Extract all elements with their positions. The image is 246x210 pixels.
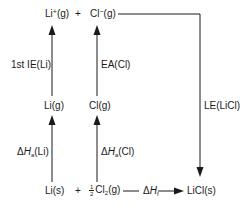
species-cl-gas: Cl(g) [89,100,111,112]
fraction-one-half: 12 [89,184,94,197]
born-haber-cycle-diagram: Li+(g) + Cl−(g) 1st IE(Li) EA(Cl) Li(g) … [0,0,246,210]
species-li-ion: Li+(g) [45,8,69,20]
label-atomisation-li: ΔHa(Li) [17,146,49,158]
species-half-cl2-gas: 12Cl2(g) [89,184,120,197]
species-li-gas: Li(g) [44,100,64,112]
species-cl-ion: Cl−(g) [90,8,116,20]
species-licl-solid: LiCl(s) [187,185,216,197]
label-enthalpy-formation: ΔHf [143,185,159,197]
label-first-ionisation-energy: 1st IE(Li) [11,59,51,71]
arrow-atomisation-cl [94,115,101,182]
plus-sign-top: + [75,8,81,20]
plus-sign-bottom: + [75,185,81,197]
arrow-electron-affinity-cl [94,25,101,96]
species-li-solid: Li(s) [45,185,64,197]
arrow-atomisation-li [49,115,56,182]
label-lattice-energy: LE(LiCl) [204,100,240,112]
label-atomisation-cl: ΔHa(Cl) [101,146,134,158]
label-electron-affinity: EA(Cl) [101,59,130,71]
